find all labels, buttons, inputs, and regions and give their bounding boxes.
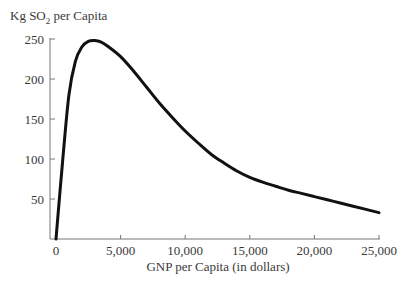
x-tick-label: 5,000 [106,243,135,258]
y-tick-label: 100 [25,152,45,167]
x-tick-label: 0 [53,243,60,258]
y-tick-label: 250 [25,32,45,47]
y-tick-label: 50 [31,192,44,207]
x-tick-label: 15,000 [232,243,268,258]
svg-text:Kg SO2 per Capita: Kg SO2 per Capita [10,8,108,26]
chart: Kg SO2 per Capita 50100150200250 05,0001… [0,0,419,289]
y-axis-title-main: Kg SO [10,8,46,23]
data-line [56,41,379,239]
y-tick-label: 200 [25,72,45,87]
y-axis-title: Kg SO2 per Capita [10,8,108,26]
x-ticks: 05,00010,00015,00020,00025,000 [53,235,397,258]
y-axis-title-rest: per Capita [50,8,107,23]
x-tick-label: 25,000 [361,243,397,258]
y-tick-label: 150 [25,112,45,127]
x-axis-title: GNP per Capita (in dollars) [146,259,289,274]
x-tick-label: 10,000 [167,243,203,258]
x-tick-label: 20,000 [297,243,333,258]
